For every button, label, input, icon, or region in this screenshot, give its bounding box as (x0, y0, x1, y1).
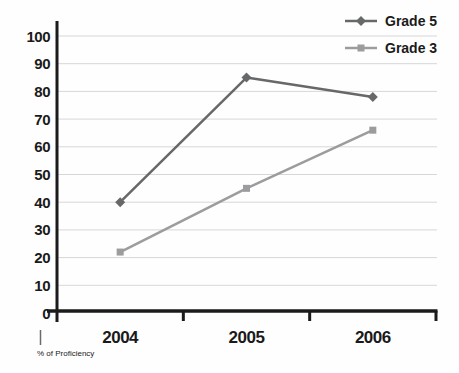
data-point-marker (369, 127, 376, 134)
legend-item-grade-5: Grade 5 (345, 13, 437, 29)
y-axis-label: 40 (34, 194, 50, 211)
data-point-marker (368, 92, 378, 102)
x-axis-label: 2004 (102, 328, 139, 347)
y-axis-label: 100 (26, 28, 50, 45)
y-axis-label: 90 (34, 55, 50, 72)
y-axis-label: 0 (42, 305, 50, 322)
data-point-marker (243, 185, 250, 192)
x-axis-label: 2006 (355, 328, 391, 347)
proficiency-line-chart: 0102030405060708090100200420052006Grade … (0, 0, 459, 373)
series-line (120, 78, 373, 203)
y-axis-label: 30 (34, 221, 50, 238)
y-axis-labels: 0102030405060708090100 (26, 28, 50, 322)
x-axis-label: 2005 (229, 328, 265, 347)
legend-label: Grade 3 (385, 40, 437, 56)
y-axis-label: 60 (34, 138, 50, 155)
y-axis-label: 10 (34, 277, 50, 294)
y-axis-label: 50 (34, 166, 50, 183)
legend-marker-square (358, 45, 365, 52)
y-axis-label: 70 (34, 111, 50, 128)
legend-marker-diamond (356, 16, 366, 26)
series-grade-3 (117, 127, 377, 256)
chart-canvas: 0102030405060708090100200420052006Grade … (0, 0, 459, 373)
y-axis-label: 80 (34, 83, 50, 100)
y-axis-label: 20 (34, 249, 50, 266)
x-axis-labels: 200420052006 (102, 328, 391, 347)
legend-item-grade-3: Grade 3 (345, 40, 437, 56)
legend-label: Grade 5 (385, 13, 437, 29)
data-point-marker (117, 249, 124, 256)
axis-note: % of Proficiency (37, 349, 94, 358)
legend: Grade 5Grade 3 (345, 13, 437, 56)
